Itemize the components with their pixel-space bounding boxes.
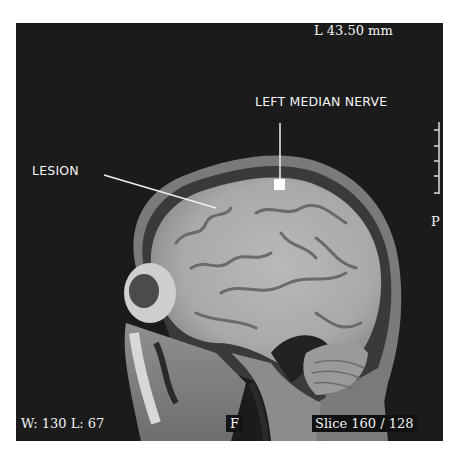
orientation-right-label: P xyxy=(431,214,440,229)
lesion-annotation: LESION xyxy=(32,163,79,178)
orientation-bottom-label: F xyxy=(226,415,243,432)
slice-counter: Slice 160 / 128 xyxy=(312,415,417,432)
scale-label: L 43.50 mm xyxy=(314,23,393,38)
sagittal-mri-image xyxy=(16,23,443,441)
window-level-label: W: 130 L: 67 xyxy=(21,416,104,431)
mri-viewer[interactable]: L 43.50 mm LEFT MEDIAN NERVE LESION P W:… xyxy=(16,23,443,441)
scale-ruler xyxy=(434,122,440,194)
nerve-annotation: LEFT MEDIAN NERVE xyxy=(255,94,387,109)
